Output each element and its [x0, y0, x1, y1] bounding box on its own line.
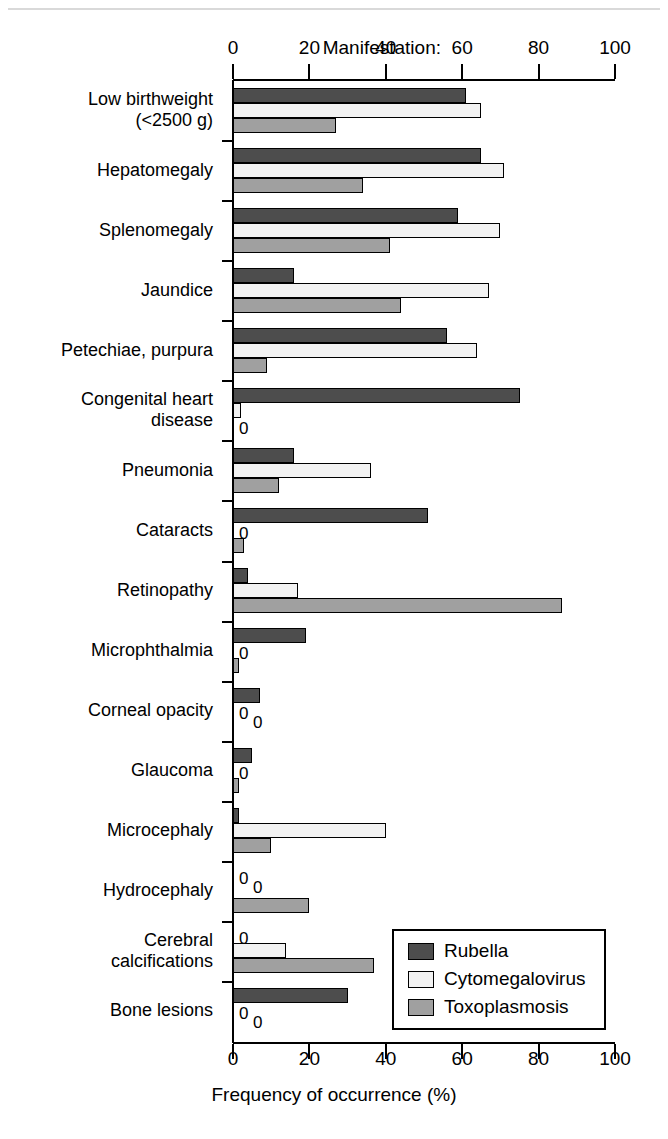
bar-toxo	[233, 838, 271, 853]
x-axis-title: Frequency of occurrence (%)	[0, 1084, 668, 1106]
bar-toxo	[233, 118, 336, 133]
bar-toxo	[233, 658, 239, 673]
bar-chart: Manifestation: Low birthweight (<2500 g)…	[0, 0, 668, 1139]
category-label: Microcephaly	[107, 820, 213, 841]
chart-legend: RubellaCytomegalovirusToxoplasmosis	[392, 929, 606, 1030]
bar-toxo	[233, 538, 244, 553]
bar-cmv	[233, 223, 500, 238]
bar-rubella	[233, 268, 294, 283]
x-tick-label-top: 0	[228, 38, 239, 58]
page-top-divider	[8, 8, 660, 10]
category-tick	[222, 741, 233, 743]
x-tick-label-top: 60	[452, 38, 473, 58]
x-tick-top	[614, 64, 616, 79]
bar-rubella	[233, 208, 458, 223]
category-tick	[222, 320, 233, 322]
bar-rubella	[233, 508, 428, 523]
category-label: Microphthalmia	[91, 640, 213, 661]
category-tick	[222, 561, 233, 563]
bar-rubella	[233, 388, 520, 403]
legend-label: Toxoplasmosis	[444, 996, 569, 1018]
bar-rubella	[233, 628, 306, 643]
category-label: Pneumonia	[122, 460, 213, 481]
zero-value-label: 0	[239, 765, 248, 782]
bar-rubella	[233, 808, 239, 823]
category-tick	[222, 921, 233, 923]
bar-toxo	[233, 178, 363, 193]
x-tick-label-top: 40	[375, 38, 396, 58]
legend-label: Rubella	[444, 940, 508, 962]
bar-toxo	[233, 478, 279, 493]
bar-cmv	[233, 463, 371, 478]
x-tick-label-bottom: 100	[599, 1049, 631, 1069]
legend-label: Cytomegalovirus	[444, 968, 586, 990]
category-label: Petechiae, purpura	[61, 340, 213, 361]
category-tick	[222, 861, 233, 863]
bar-cmv	[233, 163, 504, 178]
category-label: Splenomegaly	[99, 220, 213, 241]
x-tick-label-top: 100	[599, 38, 631, 58]
legend-swatch-icon-toxo	[408, 999, 434, 1016]
x-tick-label-bottom: 40	[375, 1049, 396, 1069]
category-label: Hydrocephaly	[103, 880, 213, 901]
bar-rubella	[233, 148, 481, 163]
bar-rubella	[233, 328, 447, 343]
category-tick	[222, 260, 233, 262]
category-label: Jaundice	[141, 280, 213, 301]
bar-toxo	[233, 238, 390, 253]
bar-cmv	[233, 103, 481, 118]
bar-toxo	[233, 778, 239, 793]
x-tick-label-bottom: 60	[452, 1049, 473, 1069]
category-tick	[222, 200, 233, 202]
category-tick	[222, 140, 233, 142]
bar-cmv	[233, 283, 489, 298]
bar-cmv	[233, 823, 386, 838]
zero-value-label: 0	[239, 870, 248, 887]
zero-value-label: 0	[253, 714, 262, 731]
category-label: Low birthweight (<2500 g)	[88, 89, 213, 131]
bar-rubella	[233, 568, 248, 583]
category-tick	[222, 380, 233, 382]
category-label: Retinopathy	[117, 580, 213, 601]
legend-swatch-icon-rubella	[408, 943, 434, 960]
category-tick	[222, 801, 233, 803]
zero-value-label: 0	[253, 1014, 262, 1031]
x-tick-label-top: 80	[528, 38, 549, 58]
bar-rubella	[233, 748, 252, 763]
bar-toxo	[233, 358, 267, 373]
x-tick-label-top: 20	[299, 38, 320, 58]
zero-value-label: 0	[253, 879, 262, 896]
category-label: Hepatomegaly	[97, 160, 213, 181]
x-tick-label-bottom: 80	[528, 1049, 549, 1069]
category-label: Bone lesions	[110, 1000, 213, 1021]
category-tick	[222, 621, 233, 623]
bar-cmv	[233, 403, 241, 418]
bar-rubella	[233, 448, 294, 463]
bar-cmv	[233, 943, 286, 958]
x-tick-top	[308, 64, 310, 79]
category-label: Congenital heart disease	[81, 389, 213, 431]
category-tick	[222, 681, 233, 683]
category-tick	[222, 981, 233, 983]
bar-rubella	[233, 88, 466, 103]
x-tick-label-bottom: 20	[299, 1049, 320, 1069]
legend-swatch-icon-cmv	[408, 971, 434, 988]
category-label: Glaucoma	[131, 760, 213, 781]
bar-toxo	[233, 298, 401, 313]
x-tick-top	[232, 64, 234, 79]
x-tick-top	[538, 64, 540, 79]
bar-cmv	[233, 343, 477, 358]
x-tick-top	[385, 64, 387, 79]
bar-toxo	[233, 598, 562, 613]
bar-toxo	[233, 898, 309, 913]
top-axis-line	[233, 79, 615, 81]
category-label: Corneal opacity	[88, 700, 213, 721]
bar-cmv	[233, 583, 298, 598]
category-label: Cataracts	[136, 520, 213, 541]
zero-value-label: 0	[239, 705, 248, 722]
x-tick-top	[461, 64, 463, 79]
category-label: Cerebral calcifications	[111, 930, 213, 972]
zero-value-label: 0	[239, 1005, 248, 1022]
x-tick-label-bottom: 0	[228, 1049, 239, 1069]
bar-rubella	[233, 688, 260, 703]
